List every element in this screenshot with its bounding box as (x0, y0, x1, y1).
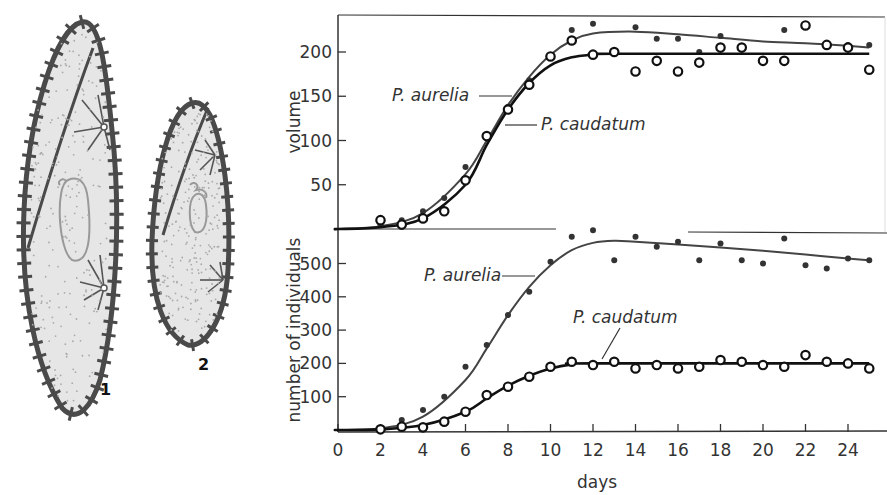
data-point-open (440, 207, 448, 215)
data-point-filled (696, 257, 702, 263)
data-point-filled (463, 364, 469, 370)
top-y-axis-title: volume (284, 91, 304, 154)
data-point-open (865, 66, 873, 74)
x-tick-label: 4 (418, 440, 429, 460)
data-point-open (504, 383, 512, 391)
data-point-open (546, 52, 554, 60)
data-point-filled (484, 342, 490, 348)
data-point-open (589, 50, 597, 58)
data-point-open (525, 81, 533, 89)
data-point-filled (526, 289, 532, 295)
top-label-caudatum: P. caudatum (541, 114, 645, 134)
data-point-filled (866, 42, 872, 48)
x-tick-label: 16 (667, 440, 689, 460)
data-point-open (376, 425, 384, 433)
data-point-filled (845, 256, 851, 262)
data-point-filled (718, 33, 724, 39)
data-point-open (610, 358, 618, 366)
data-point-filled (611, 257, 617, 263)
data-point-filled (420, 407, 426, 413)
data-point-open (419, 214, 427, 222)
data-point-open (610, 48, 618, 56)
data-point-open (695, 363, 703, 371)
data-point-open (674, 67, 682, 75)
bottom-y-tick-label: 300 (300, 320, 332, 340)
data-point-open (759, 57, 767, 65)
paramecium-illustrations: 1 2 (16, 15, 234, 420)
x-tick-label: 20 (752, 440, 774, 460)
bottom-y-tick-label: 100 (300, 387, 332, 407)
data-point-open (695, 58, 703, 66)
paramecium-aurelia-drawing: 2 (146, 97, 235, 374)
data-point-filled (463, 164, 469, 170)
data-point-filled (718, 241, 724, 247)
data-point-filled (781, 236, 787, 242)
data-point-open (589, 361, 597, 369)
data-point-open (653, 361, 661, 369)
data-point-filled (590, 21, 596, 27)
bottom-y-tick-label: 500 (300, 254, 332, 274)
x-axis-title: days (577, 472, 617, 492)
data-point-open (716, 356, 724, 364)
panel-divider-right (688, 232, 887, 233)
data-point-open (398, 422, 406, 430)
data-point-filled (441, 394, 447, 400)
organism-number-1: 1 (100, 380, 111, 399)
top-y-tick-label: 50 (310, 175, 332, 195)
bottom-label-caudatum: P. caudatum (573, 307, 677, 327)
top-label-aurelia: P. aurelia (392, 85, 469, 105)
data-point-open (419, 423, 427, 431)
data-point-filled (505, 312, 511, 318)
bottom-y-tick-label: 200 (300, 353, 332, 373)
chart-axes (338, 15, 887, 432)
data-point-open (461, 176, 469, 184)
organism-number-2: 2 (198, 355, 209, 374)
data-point-open (844, 359, 852, 367)
data-point-filled (739, 257, 745, 263)
data-point-open (568, 36, 576, 44)
paramecium-competition-figure: 1 2 0246810121416182022245010015 (0, 0, 887, 495)
x-tick-label: 6 (460, 440, 471, 460)
data-point-open (801, 21, 809, 29)
data-point-open (738, 358, 746, 366)
data-point-open (801, 351, 809, 359)
data-point-open (823, 41, 831, 49)
data-point-filled (441, 195, 447, 201)
data-point-filled (590, 227, 596, 233)
data-point-filled (866, 257, 872, 263)
data-point-filled (548, 259, 554, 265)
data-point-open (376, 216, 384, 224)
top-y-tick-label: 150 (300, 86, 332, 106)
data-point-filled (675, 36, 681, 42)
data-point-open (461, 407, 469, 415)
data-point-open (716, 43, 724, 51)
data-point-open (631, 67, 639, 75)
chart-series (335, 21, 874, 434)
data-point-open (674, 364, 682, 372)
data-point-filled (569, 27, 575, 33)
data-point-filled (569, 234, 575, 240)
x-tick-label: 10 (540, 440, 562, 460)
data-point-open (780, 57, 788, 65)
x-tick-label: 14 (625, 440, 647, 460)
x-tick-label: 8 (503, 440, 514, 460)
data-point-open (780, 363, 788, 371)
data-point-filled (824, 265, 830, 271)
bottom-y-tick-label: 400 (300, 287, 332, 307)
data-point-filled (654, 244, 660, 250)
data-point-filled (654, 36, 660, 42)
bottom-label-aurelia: P. aurelia (424, 265, 501, 285)
data-point-open (483, 391, 491, 399)
bottom-y-axis-title: number of individuals (284, 237, 304, 422)
x-tick-label: 24 (837, 440, 859, 460)
data-point-open (844, 43, 852, 51)
data-point-open (759, 361, 767, 369)
paramecium-caudatum-drawing: 1 (16, 15, 123, 420)
x-tick-label: 22 (795, 440, 817, 460)
data-point-filled (633, 234, 639, 240)
data-point-open (546, 363, 554, 371)
data-point-open (568, 358, 576, 366)
bottom-series-aurelia (335, 227, 872, 431)
top-frame-line (338, 15, 885, 17)
data-point-open (483, 132, 491, 140)
